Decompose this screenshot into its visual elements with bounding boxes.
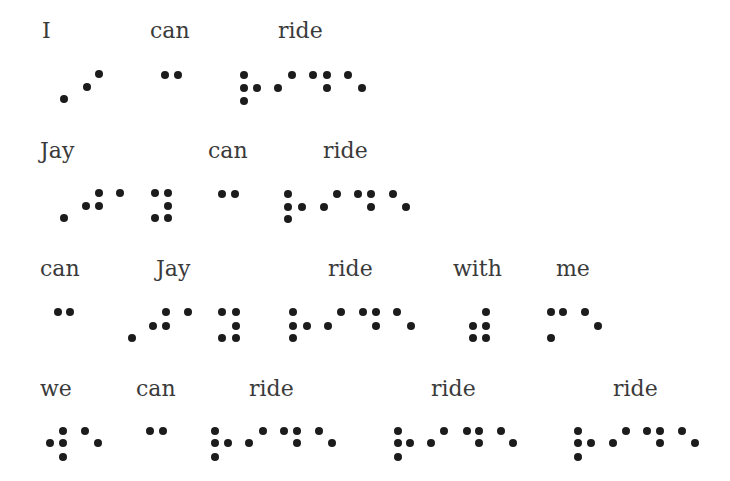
braille-dot <box>83 83 91 91</box>
braille-dot <box>60 214 68 222</box>
braille-dot <box>288 71 296 79</box>
braille-dot <box>59 427 67 435</box>
braille-dot <box>211 439 219 447</box>
braille-dot <box>574 453 582 461</box>
braille-dot <box>337 308 345 316</box>
braille-dot <box>151 189 159 197</box>
braille-dot <box>164 189 172 197</box>
braille-dot <box>547 308 555 316</box>
braille-dot <box>678 427 686 435</box>
braille-dot <box>622 427 630 435</box>
braille-dot <box>581 308 589 316</box>
word-label: I <box>42 20 51 42</box>
word-label: we <box>40 378 72 400</box>
braille-dot <box>427 439 435 447</box>
braille-dot <box>315 427 323 435</box>
word-label: Jay <box>156 258 190 280</box>
braille-dot <box>146 427 154 435</box>
braille-dot <box>253 84 261 92</box>
word-label: ride <box>613 378 658 400</box>
braille-dot <box>159 427 167 435</box>
braille-dot <box>440 427 448 435</box>
braille-dot <box>59 439 67 447</box>
braille-dot <box>394 427 402 435</box>
word-label: ride <box>431 378 476 400</box>
braille-dot <box>367 190 375 198</box>
braille-dot <box>162 322 170 330</box>
braille-dot <box>66 308 74 316</box>
braille-dot <box>46 439 54 447</box>
braille-dot <box>547 334 555 342</box>
braille-dot <box>274 84 282 92</box>
braille-dot <box>509 439 517 447</box>
braille-dot <box>324 322 332 330</box>
word-label: can <box>150 20 190 42</box>
braille-dot <box>372 322 380 330</box>
braille-dot <box>389 190 397 198</box>
braille-dot <box>469 334 477 342</box>
braille-dot <box>284 203 292 211</box>
braille-dot <box>333 190 341 198</box>
braille-dot <box>280 427 288 435</box>
braille-dot <box>218 190 226 198</box>
braille-dot <box>164 214 172 222</box>
braille-dot <box>475 427 483 435</box>
braille-dot <box>320 203 328 211</box>
braille-dot <box>240 71 248 79</box>
braille-dot <box>497 427 505 435</box>
braille-dot <box>232 334 240 342</box>
braille-dot <box>482 308 490 316</box>
braille-dot <box>259 427 267 435</box>
braille-dot <box>94 439 102 447</box>
braille-dot <box>184 308 192 316</box>
braille-dot <box>643 427 651 435</box>
braille-dot <box>367 203 375 211</box>
word-label: with <box>453 258 502 280</box>
braille-dot <box>245 439 253 447</box>
braille-dot <box>231 190 239 198</box>
braille-dot <box>323 71 331 79</box>
braille-dot <box>293 427 301 435</box>
braille-dot <box>218 334 226 342</box>
word-label: can <box>208 140 248 162</box>
braille-dot <box>656 439 664 447</box>
braille-dot <box>164 202 172 210</box>
braille-dot <box>372 308 380 316</box>
braille-dot <box>574 427 582 435</box>
word-label: can <box>40 258 80 280</box>
braille-dot <box>559 308 567 316</box>
braille-dot <box>174 71 182 79</box>
braille-dot <box>149 322 157 330</box>
braille-dot <box>240 84 248 92</box>
braille-dot <box>482 334 490 342</box>
braille-dot <box>59 453 67 461</box>
braille-dot <box>289 334 297 342</box>
word-label: ride <box>328 258 373 280</box>
braille-dot <box>81 427 89 435</box>
braille-dot <box>394 453 402 461</box>
word-label: ride <box>249 378 294 400</box>
word-label: ride <box>278 20 323 42</box>
braille-dot <box>303 322 311 330</box>
braille-dot <box>482 322 490 330</box>
word-label: ride <box>323 140 368 162</box>
braille-dot <box>656 427 664 435</box>
braille-dot <box>475 439 483 447</box>
braille-dot <box>574 439 582 447</box>
braille-dot <box>82 202 90 210</box>
braille-dot <box>211 427 219 435</box>
word-label: Jay <box>40 140 74 162</box>
braille-dot <box>469 322 477 330</box>
braille-dot <box>309 71 317 79</box>
braille-dot <box>116 189 124 197</box>
braille-dot <box>284 190 292 198</box>
braille-dot <box>240 97 248 105</box>
braille-dot <box>95 202 103 210</box>
braille-dot <box>344 71 352 79</box>
word-label: can <box>136 378 176 400</box>
braille-dot <box>232 308 240 316</box>
braille-dot <box>60 95 68 103</box>
braille-dot <box>218 308 226 316</box>
braille-dot <box>393 308 401 316</box>
braille-dot <box>224 439 232 447</box>
